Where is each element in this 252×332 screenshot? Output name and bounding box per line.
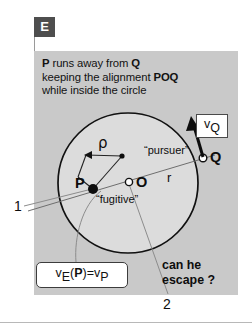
figure-page: E P runs away from Q keeping the alignme…: [0, 0, 252, 332]
formula-box: vE(P)=vP: [36, 262, 128, 288]
velocity-q-subscript: Q: [210, 121, 220, 135]
bottom-rule: [0, 322, 252, 323]
point-q-label: Q: [210, 149, 221, 165]
rho-tip-marker: [119, 153, 124, 158]
formula-text: vE(P)=vP: [55, 266, 108, 284]
velocity-q-symbol: vQ: [204, 117, 220, 135]
escape-line-1: can he: [162, 258, 215, 273]
callout-2-label: 2: [163, 296, 171, 312]
point-p-label: P: [75, 175, 85, 191]
escape-line-2: escape ?: [162, 273, 215, 288]
point-o-label: O: [136, 174, 147, 190]
radius-label: r: [167, 170, 171, 185]
pursuer-label: “pursuer”: [144, 144, 189, 156]
fugitive-label: “fugitive”: [96, 193, 138, 205]
escape-question: can he escape ?: [162, 258, 215, 287]
point-o-marker: [125, 178, 132, 185]
callout-1-label: 1: [14, 198, 22, 214]
velocity-q-box: vQ: [196, 114, 228, 138]
rho-label: ρ: [98, 134, 108, 152]
